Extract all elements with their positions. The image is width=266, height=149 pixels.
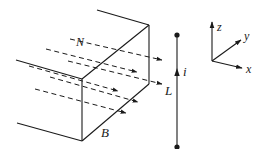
- diagram-canvas: N B i L z y x: [0, 0, 266, 149]
- box-bottom-diagonal-edge: [82, 84, 149, 141]
- x-axis-arrow: [212, 61, 242, 68]
- wire-bottom-endpoint-dot: [174, 144, 179, 149]
- x-axis-label: x: [245, 62, 252, 76]
- current-direction-arrow-icon: [174, 68, 179, 76]
- field-line-2: [46, 49, 137, 72]
- box-top-left-edge: [16, 60, 82, 79]
- current-wire: [174, 32, 179, 149]
- field-line-6: [35, 89, 126, 113]
- box-bottom-left-edge: [17, 123, 82, 141]
- box-top-diagonal-edge: [82, 25, 149, 79]
- field-lines: [29, 39, 162, 113]
- field-line-5: [50, 77, 138, 102]
- wire-top-endpoint-dot: [174, 32, 179, 37]
- current-label: i: [183, 64, 187, 79]
- magnetic-field-label: B: [101, 125, 109, 140]
- field-symbol-label: N: [75, 35, 85, 49]
- z-axis-label: z: [216, 20, 222, 34]
- wire-length-label: L: [164, 83, 172, 98]
- y-axis-arrow: [212, 40, 241, 61]
- box-top-back-edge: [97, 10, 149, 25]
- y-axis-label: y: [243, 29, 250, 43]
